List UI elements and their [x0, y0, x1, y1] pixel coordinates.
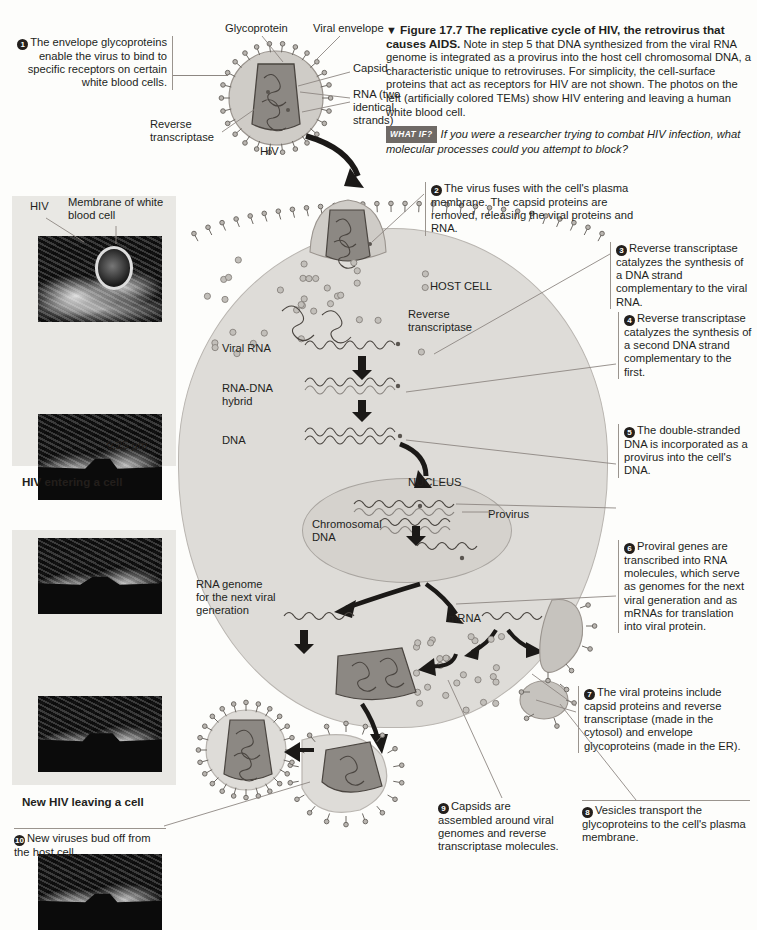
- step-7-number: 7: [584, 689, 595, 700]
- step-8-leader: [540, 700, 660, 804]
- step-1-number: 1: [17, 39, 28, 50]
- step-8-text: Vesicles transport the glycoproteins to …: [582, 804, 746, 843]
- step-5-leader: [402, 436, 622, 476]
- tem-image-4: [38, 696, 162, 772]
- figure-number: Figure 17.7: [400, 23, 462, 37]
- what-if-badge: WHAT IF?: [386, 126, 437, 143]
- step-1-callout: 1The envelope glycoproteins enable the v…: [8, 36, 173, 90]
- step-2-leader: [356, 190, 428, 250]
- figure-caption: ▼ Figure 17.7 The replicative cycle of H…: [386, 24, 752, 156]
- micrograph-leader-lines: [12, 196, 176, 256]
- step-10-text: New viruses bud off from the host cell.: [14, 832, 151, 858]
- tem-image-5: [38, 854, 162, 930]
- step-4-text: Reverse transcriptase catalyzes the synt…: [624, 312, 751, 378]
- step-6-leader: [452, 500, 622, 610]
- step-9-text: Capsids are assembled around viral genom…: [438, 800, 559, 852]
- chromosomal-dna-strand-a: [354, 501, 454, 508]
- step-2-text: The virus fuses with the cell's plasma m…: [431, 182, 633, 234]
- step-6-callout: 6Proviral genes are transcribed into RNA…: [618, 540, 752, 633]
- label-viral-rna: Viral RNA: [222, 342, 271, 355]
- viral-rna-strand: [305, 341, 395, 349]
- step-5-text: The double-stranded DNA is incorporated …: [624, 424, 748, 476]
- caption-triangle-icon: ▼: [386, 24, 397, 36]
- scale-bar-label: 0.25 µm: [92, 439, 162, 452]
- step-6-number: 6: [624, 543, 635, 554]
- step-4-leader: [402, 330, 622, 410]
- step-9-leader: [440, 676, 510, 802]
- step-6-text: Proviral genes are transcribed into RNA …: [624, 540, 744, 632]
- label-rna-dna-hybrid: RNA-DNA hybrid: [222, 382, 284, 408]
- caption-hiv-leaving: New HIV leaving a cell: [22, 795, 144, 808]
- what-if-text: If you were a researcher trying to comba…: [386, 128, 740, 155]
- step-5-number: 5: [624, 427, 635, 438]
- step-4-number: 4: [624, 315, 635, 326]
- step-2-callout: 2The virus fuses with the cell's plasma …: [425, 182, 657, 236]
- step-9-number: 9: [438, 803, 449, 814]
- step-3-text: Reverse transcriptase catalyzes the synt…: [616, 242, 747, 308]
- step-10-leader: [160, 778, 320, 832]
- what-if-block: WHAT IF?If you were a researcher trying …: [386, 126, 752, 156]
- step-2-number: 2: [431, 185, 442, 196]
- step-4-callout: 4Reverse transcriptase catalyzes the syn…: [618, 312, 752, 379]
- step-10-callout: 10New viruses bud off from the host cell…: [14, 828, 166, 859]
- step-9-callout: 9Capsids are assembled around viral geno…: [438, 800, 562, 854]
- step-10-number: 10: [14, 835, 25, 846]
- tem-image-3: [38, 538, 162, 614]
- label-dna: DNA: [222, 434, 246, 447]
- step-1-text: The envelope glycoproteins enable the vi…: [28, 36, 167, 88]
- step-3-callout: 3Reverse transcriptase catalyzes the syn…: [610, 242, 752, 309]
- micrograph-panel-leaving: [12, 530, 176, 785]
- step-8-callout: 8Vesicles transport the glycoproteins to…: [582, 800, 750, 844]
- caption-hiv-entering: HIV entering a cell: [22, 475, 123, 488]
- provirus-strand: [380, 519, 450, 526]
- step-8-number: 8: [582, 807, 593, 818]
- step-5-callout: 5The double-stranded DNA is incorporated…: [618, 424, 752, 478]
- step-3-number: 3: [616, 245, 627, 256]
